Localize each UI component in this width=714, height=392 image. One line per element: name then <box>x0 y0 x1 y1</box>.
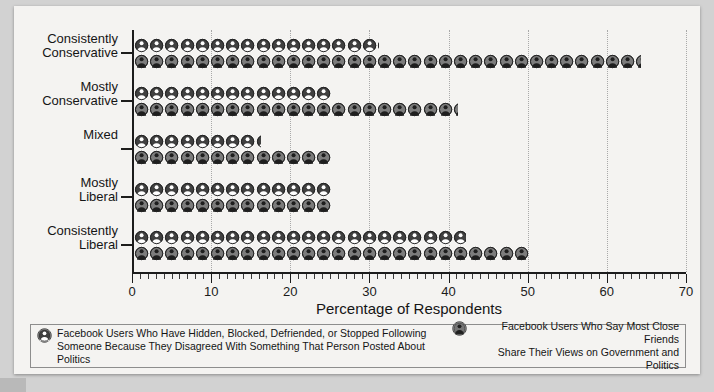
x-tick-label: 40 <box>441 284 455 299</box>
person-dark-icon <box>134 134 149 149</box>
x-tick-minor <box>575 274 576 279</box>
person-dark-icon <box>164 38 179 53</box>
person-light-icon <box>180 54 195 69</box>
category-label-line1: Mostly <box>14 80 118 94</box>
x-tick-minor <box>227 274 228 279</box>
person-light-icon <box>180 150 195 165</box>
x-axis-title: Percentage of Respondents <box>132 300 686 317</box>
person-dark-icon <box>240 134 255 149</box>
category-label-line2: Liberal <box>14 190 118 204</box>
person-light-icon <box>134 54 149 69</box>
x-tick-minor <box>417 274 418 279</box>
x-tick-label: 0 <box>128 284 135 299</box>
person-dark-icon <box>134 86 149 101</box>
x-tick-major <box>607 274 608 283</box>
x-tick-minor <box>639 274 640 279</box>
person-light-icon <box>301 102 316 117</box>
person-light-icon <box>635 54 640 69</box>
x-tick-minor <box>551 274 552 279</box>
person-dark-icon <box>256 230 271 245</box>
person-light-icon <box>316 150 331 165</box>
category-tick <box>121 148 132 150</box>
x-tick-minor <box>433 274 434 279</box>
person-light-icon <box>240 198 255 213</box>
legend-a-line1: Facebook Users Who Have Hidden, Blocked,… <box>57 327 426 339</box>
person-light-icon <box>271 246 286 261</box>
category-tick <box>121 52 132 54</box>
category-tick <box>121 244 132 246</box>
category-tick <box>121 100 132 102</box>
pictograph-row-hidden-blocked-defriended <box>134 38 379 53</box>
person-light-icon <box>180 246 195 261</box>
x-tick-minor <box>425 274 426 279</box>
pictograph-row-hidden-blocked-defriended <box>134 134 261 149</box>
legend-b-line2: Share Their Views on Government and Poli… <box>472 346 679 372</box>
x-tick-minor <box>520 274 521 279</box>
pictograph-row-hidden-blocked-defriended <box>134 230 466 245</box>
person-light-icon <box>271 150 286 165</box>
person-light-icon <box>210 150 225 165</box>
person-light-icon <box>149 54 164 69</box>
gridline <box>686 30 688 272</box>
x-tick-minor <box>377 274 378 279</box>
person-light-icon <box>149 198 164 213</box>
x-tick-major <box>211 274 212 283</box>
legend-entry-hidden-blocked: Facebook Users Who Have Hidden, Blocked,… <box>31 327 446 366</box>
person-dark-icon <box>210 38 225 53</box>
person-dark-icon <box>362 230 377 245</box>
person-light-icon <box>331 54 346 69</box>
person-light-icon <box>316 54 331 69</box>
person-light-icon <box>195 198 210 213</box>
person-light-icon <box>301 150 316 165</box>
pictograph-row-hidden-blocked-defriended <box>134 86 332 101</box>
person-light-icon <box>225 54 240 69</box>
person-light-icon <box>544 54 559 69</box>
x-tick-minor <box>480 274 481 279</box>
person-light-icon <box>392 54 407 69</box>
x-tick-label: 10 <box>204 284 218 299</box>
person-light-icon <box>180 198 195 213</box>
person-dark-icon <box>286 86 301 101</box>
person-light-icon <box>149 246 164 261</box>
x-tick-major <box>132 274 133 283</box>
category-label-3: Mixed <box>14 128 132 142</box>
person-light-icon <box>164 246 179 261</box>
chart-legend: Facebook Users Who Have Hidden, Blocked,… <box>30 324 686 368</box>
person-dark-icon <box>225 86 240 101</box>
person-light-icon <box>225 150 240 165</box>
x-tick-label: 20 <box>283 284 297 299</box>
person-light-icon <box>407 102 422 117</box>
person-light-icon <box>362 54 377 69</box>
person-light-icon <box>195 54 210 69</box>
x-tick-minor <box>243 274 244 279</box>
person-dark-icon <box>180 86 195 101</box>
person-light-icon <box>316 198 331 213</box>
person-light-icon <box>423 54 438 69</box>
person-dark-icon <box>271 230 286 245</box>
x-tick-minor <box>330 274 331 279</box>
person-dark-icon <box>347 38 362 53</box>
person-light-icon <box>529 246 530 261</box>
x-tick-minor <box>354 274 355 279</box>
person-light-icon <box>423 246 438 261</box>
person-light-icon <box>256 150 271 165</box>
person-dark-icon <box>134 230 149 245</box>
x-tick-minor <box>179 274 180 279</box>
legend-b-line1: Facebook Users Who Say Most Close Friend… <box>502 320 679 345</box>
person-light-icon <box>134 102 149 117</box>
x-tick-minor <box>282 274 283 279</box>
person-light-icon <box>468 54 483 69</box>
person-light-icon <box>240 246 255 261</box>
person-light-icon <box>438 246 453 261</box>
person-dark-icon <box>392 230 407 245</box>
person-light-icon <box>240 54 255 69</box>
category-label-4: MostlyLiberal <box>14 176 132 204</box>
person-dark-icon <box>316 86 331 101</box>
person-light-icon <box>468 246 483 261</box>
person-light-icon <box>271 54 286 69</box>
pictograph-row-close-friends-share-views <box>134 102 458 117</box>
person-dark-icon <box>240 38 255 53</box>
person-light-icon <box>407 54 422 69</box>
x-tick-minor <box>362 274 363 279</box>
x-tick-minor <box>599 274 600 279</box>
